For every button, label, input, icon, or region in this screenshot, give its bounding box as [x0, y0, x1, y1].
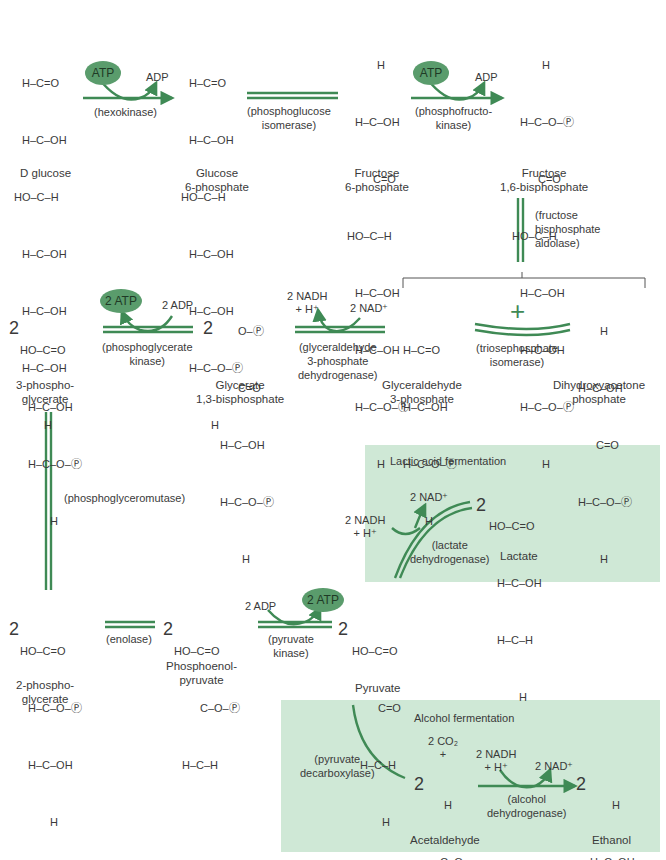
molecule-phosphoenolpyruvate: HO–C=O C–O–Ⓟ H–C–H [182, 604, 240, 794]
coefficient-3pg: 2 [9, 318, 19, 339]
label-glucose-6-phosphate: Glucose 6-phosphate [185, 166, 249, 194]
molecule-3-phosphoglycerate: HO–C=O H–C–OH H–C–O–Ⓟ H [28, 303, 82, 550]
label-fructose-1-6-bisphosphate: Fructose 1,6-bisphosphate [500, 166, 588, 194]
label-fructose-6-phosphate: Fructose 6-phosphate [345, 166, 409, 194]
coefficient-pyruvate: 2 [338, 619, 348, 640]
molecule-lactate: HO–C=O H–C–OH H–C–H H [497, 479, 542, 726]
label-d-glucose: D glucose [20, 166, 71, 180]
label-ethanol: Ethanol [592, 833, 631, 847]
atp-badge-pgk: 2 ATP [100, 289, 142, 313]
molecule-2-phosphoglycerate: HO–C=O H–C–O–Ⓟ H–C–OH H [28, 604, 82, 851]
label-phosphoenolpyruvate: Phosphoenol- pyruvate [166, 659, 237, 687]
molecule-fructose-6-phosphate: H H–C–OH C=O HO–C–H H–C–OH H–C–OH H–C–O–… [355, 18, 409, 493]
label-lactate: Lactate [500, 549, 538, 563]
adp-pfk: ADP [475, 71, 498, 84]
adp-pk: 2 ADP [245, 600, 276, 613]
nadh-ldh: 2 NADH + H⁺ [345, 514, 385, 540]
nad-adh: 2 NAD⁺ [535, 760, 573, 773]
enzyme-pyruvate-kinase: (pyruvate kinase) [268, 632, 314, 660]
coefficient-g13bp: 2 [203, 318, 213, 339]
label-dihydroxyacetone-phosphate: Dihydroxyacetone phosphate [553, 378, 645, 406]
enzyme-phosphoglyceromutase: (phosphoglyceromutase) [64, 491, 185, 505]
label-3-phosphoglycerate: 3-phospho- glycerate [16, 378, 74, 406]
enzyme-enolase: (enolase) [106, 632, 152, 646]
coefficient-ethanol: 2 [576, 774, 586, 795]
coefficient-2pg: 2 [9, 619, 19, 640]
label-glycerate-1-3-bisphosphate: Glycerate 1,3-bisphosphate [196, 378, 284, 406]
label-acetaldehyde: Acetaldehyde [410, 833, 480, 847]
label-2-phosphoglycerate: 2-phospho- glycerate [16, 678, 74, 706]
enzyme-hexokinase: (hexokinase) [94, 105, 157, 119]
atp-badge-pfk: ATP [413, 61, 449, 85]
adp-hexokinase: ADP [146, 71, 169, 84]
nadh-gapdh: 2 NADH + H⁺ [287, 290, 327, 316]
molecule-fructose-1-6-bisphosphate: H H–C–O–Ⓟ C=O HO–C–H H–C–OH H–C–OH H–C–O… [520, 18, 574, 493]
enzyme-phosphoglycerate-kinase: (phosphoglycerate kinase) [102, 340, 193, 368]
coefficient-pep: 2 [163, 619, 173, 640]
atp-badge-hexokinase: ATP [85, 61, 121, 85]
atp-badge-pk: 2 ATP [302, 588, 344, 612]
enzyme-alcohol-dehydrogenase: (alcohol dehydrogenase) [487, 792, 567, 820]
molecule-glycerate-1-3-bisphosphate: O–Ⓟ C=O H–C–OH H–C–O–Ⓟ H [220, 284, 274, 588]
molecule-glyceraldehyde-3-phosphate: H–C=O H–C–OH H–C–O–Ⓟ H [403, 303, 457, 550]
enzyme-phosphoglucose-isomerase: (phosphoglucose isomerase) [247, 104, 331, 132]
molecule-pyruvate: HO–C=O C=O H–C–H H [360, 604, 401, 851]
coefficient-lactate: 2 [476, 495, 486, 516]
label-pyruvate: Pyruvate [355, 681, 400, 695]
nadh-adh: 2 NADH + H⁺ [476, 748, 516, 774]
label-glyceraldehyde-3-phosphate: Glyceraldehyde 3-phosphate [382, 378, 462, 406]
enzyme-phosphofructokinase: (phosphofructo- kinase) [415, 104, 492, 132]
molecule-dihydroxyacetone-phosphate: H H–C–OH C=O H–C–O–Ⓟ H [578, 284, 632, 588]
